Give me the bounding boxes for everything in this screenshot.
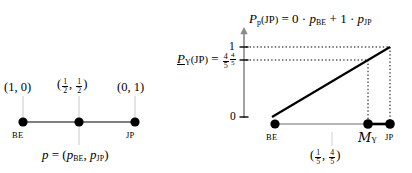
fraction-one-half-b: 12	[76, 78, 82, 95]
caption-comma: ,	[84, 147, 87, 162]
formula-dot-2: ·	[350, 11, 354, 26]
node-dot-jp-right	[385, 119, 395, 129]
y-tick-label-0: 0	[230, 110, 236, 122]
bottom-caption-paren-open: (	[310, 148, 314, 162]
caption-equals: =	[52, 147, 59, 162]
lower-prob-value-fraction: 45	[223, 53, 229, 71]
node-dot-be-right	[270, 119, 279, 128]
y-axis-arrowhead	[240, 27, 247, 34]
fraction-one-half-a: 12	[62, 78, 68, 95]
point-label-be-text: (1, 0)	[4, 80, 31, 94]
lower-prob-P: P	[177, 51, 185, 66]
formula-P: P	[249, 11, 257, 26]
probability-line	[272, 47, 390, 117]
formula-term1-subscript: BE	[316, 18, 326, 27]
bottom-caption-fraction-a: 15	[315, 149, 321, 166]
formula-plus: +	[330, 11, 337, 26]
lower-prob-equals: =	[211, 51, 218, 66]
node-label-be-right: BE	[266, 132, 277, 142]
point-label-mid-left: (12, 12)	[57, 77, 87, 95]
point-label-be-left: (1, 0)	[4, 80, 31, 95]
bottom-caption-right: (15, 45)	[310, 148, 340, 166]
formula-term2-subscript: JP	[364, 18, 372, 27]
formula-equals: =	[281, 11, 288, 26]
bottom-caption-comma: ,	[322, 148, 325, 162]
bottom-caption-fraction-b: 45	[329, 149, 335, 166]
formula-coefficient-2: 1	[340, 11, 347, 26]
paren-open: (	[57, 77, 61, 91]
formula-coefficient-1: 0	[292, 11, 299, 26]
node-dot-be-left	[18, 117, 27, 126]
point-label-jp-left: (0, 1)	[117, 80, 144, 95]
comma-separator: ,	[69, 77, 72, 91]
lower-probability-label: PY(JP) = 45	[177, 51, 230, 71]
node-dot-mid-left	[74, 117, 83, 126]
formula-dot-1: ·	[302, 11, 306, 26]
paren-close: )	[83, 77, 87, 91]
caption-p: p	[42, 147, 49, 162]
node-label-jp-right: JP	[385, 132, 394, 142]
y-tick-fraction: 45	[230, 52, 236, 68]
bottom-caption-paren-close: )	[336, 148, 340, 162]
top-formula: Pp(JP) = 0 · pBE + 1 · pJP	[249, 11, 372, 27]
node-label-be-left: BE	[12, 130, 23, 140]
y-tick-label-four-fifths: 45	[229, 52, 237, 68]
lower-prob-argument: (JP)	[191, 54, 208, 65]
figure-canvas: (1, 0) (12, 12) (0, 1) BE JP p = (pBE, p…	[0, 0, 412, 173]
node-dot-jp-left	[130, 117, 139, 126]
caption-paren-close: )	[104, 147, 108, 162]
script-m-glyph: M	[358, 130, 371, 145]
script-m-subscript: Y	[371, 136, 377, 145]
node-label-jp-left: JP	[126, 130, 135, 140]
caption-p-be-subscript: BE	[73, 154, 83, 163]
left-caption-formula: p = (pBE, pJP)	[42, 147, 109, 163]
formula-argument: (JP)	[261, 14, 278, 25]
point-label-jp-text: (0, 1)	[117, 80, 144, 94]
node-label-my-right: MY	[358, 128, 377, 146]
